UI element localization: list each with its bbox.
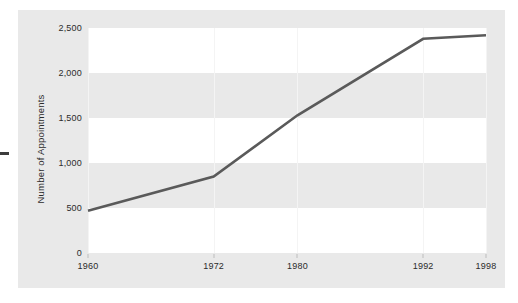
chart-figure: Number of Appointments 05001,0001,5002,0… bbox=[0, 0, 518, 303]
series-line-appointments bbox=[88, 35, 486, 211]
x-tick-mark bbox=[88, 254, 89, 258]
y-tick-label: 2,000 bbox=[58, 68, 82, 78]
y-tick-label: 2,500 bbox=[58, 23, 82, 33]
x-tick-mark bbox=[297, 254, 298, 258]
y-tick-label: 1,500 bbox=[58, 113, 82, 123]
vertical-gridline bbox=[486, 28, 487, 253]
y-tick-label: 1,000 bbox=[58, 158, 82, 168]
x-tick-mark bbox=[213, 254, 214, 258]
y-tick-label: 0 bbox=[77, 248, 82, 258]
x-tick-label: 1960 bbox=[78, 261, 99, 271]
plot-area bbox=[88, 28, 486, 253]
x-tick-label: 1992 bbox=[413, 261, 434, 271]
x-tick-label: 1998 bbox=[476, 261, 497, 271]
x-axis-tick-labels: 19601972198019921998 bbox=[88, 261, 486, 275]
x-tick-mark bbox=[486, 254, 487, 258]
edge-dash-mark bbox=[0, 152, 9, 155]
y-axis-tick-labels: 05001,0001,5002,0002,500 bbox=[40, 28, 82, 253]
x-tick-label: 1972 bbox=[203, 261, 224, 271]
x-tick-label: 1980 bbox=[287, 261, 308, 271]
y-tick-label: 500 bbox=[66, 203, 82, 213]
x-tick-mark bbox=[423, 254, 424, 258]
series-line-layer bbox=[88, 28, 486, 253]
